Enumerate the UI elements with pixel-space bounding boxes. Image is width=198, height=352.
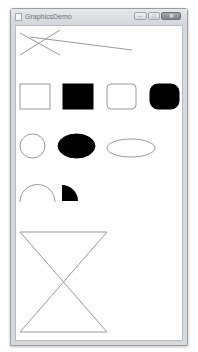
hourglass-shape bbox=[20, 232, 107, 332]
pie-shape bbox=[62, 185, 78, 201]
outline-ellipse bbox=[107, 139, 155, 157]
graphics-canvas bbox=[0, 0, 198, 352]
line-shape bbox=[30, 37, 132, 50]
outline-ellipse bbox=[20, 134, 45, 158]
filled-ellipse bbox=[58, 134, 95, 158]
outline-rectangle bbox=[107, 84, 136, 109]
filled-rectangle bbox=[150, 84, 179, 109]
rectangles-group bbox=[20, 84, 179, 109]
outline-rectangle bbox=[20, 84, 50, 109]
ellipses-group bbox=[20, 134, 155, 158]
arc-shape bbox=[20, 185, 55, 202]
lines-group bbox=[20, 30, 132, 55]
filled-rectangle bbox=[63, 84, 93, 109]
